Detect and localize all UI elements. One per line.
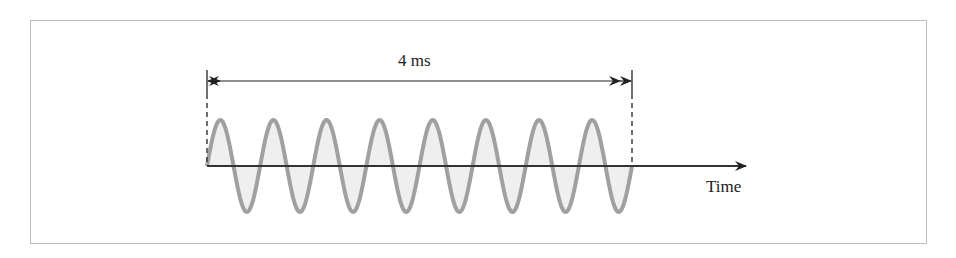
duration-label: 4 ms	[398, 52, 431, 69]
time-axis-label: Time	[706, 178, 741, 195]
sine-wave-diagram	[0, 0, 956, 258]
